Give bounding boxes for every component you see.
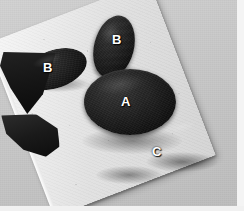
panel-label-a: A: [121, 95, 131, 108]
photo-figure: B B A C: [0, 0, 244, 211]
panel-label-c: C: [152, 145, 162, 158]
bottom-white-margin: [0, 206, 244, 211]
panel-label-b-top: B: [112, 33, 122, 46]
right-white-margin: [237, 0, 244, 211]
panel-label-b-left: B: [43, 61, 53, 74]
